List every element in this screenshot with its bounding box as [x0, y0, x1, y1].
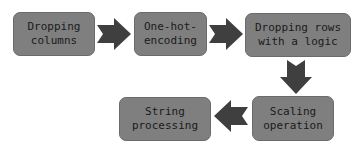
node-label: One-hot- encoding [144, 20, 197, 48]
arrow-left-icon [214, 100, 248, 132]
node-one-hot-encoding: One-hot- encoding [134, 12, 207, 56]
arrow-right-icon [209, 18, 243, 50]
node-dropping-rows: Dropping rows with a logic [245, 13, 351, 57]
node-label: Dropping columns [28, 20, 81, 48]
node-dropping-columns: Dropping columns [13, 12, 95, 56]
arrow-right-icon [97, 18, 131, 50]
node-string-processing: String processing [119, 97, 211, 141]
node-label: Scaling operation [263, 105, 323, 133]
node-label: String processing [132, 105, 198, 133]
node-label: Dropping rows with a logic [255, 21, 341, 49]
arrow-down-icon [280, 60, 312, 94]
node-scaling-operation: Scaling operation [252, 96, 334, 141]
